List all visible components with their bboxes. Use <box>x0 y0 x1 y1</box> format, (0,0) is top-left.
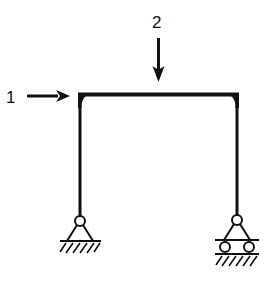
frame <box>78 93 239 216</box>
right-roller-right <box>244 242 254 252</box>
right-support-leg-left <box>224 224 234 240</box>
right-roller-left <box>220 242 230 252</box>
right-support-leg-right <box>240 224 250 240</box>
portal-frame-diagram: 1 2 <box>0 0 275 287</box>
left-pin-support <box>60 216 101 253</box>
right-pin-circle <box>232 215 242 225</box>
left-ground-hatch <box>60 243 100 253</box>
load-1: 1 <box>6 88 70 107</box>
right-roller-support <box>215 215 259 266</box>
load-2: 2 <box>152 13 165 82</box>
load-1-label: 1 <box>6 88 15 107</box>
left-support-leg-right <box>83 225 93 241</box>
load-1-arrowhead-icon <box>56 90 70 102</box>
right-ground-hatch <box>216 256 257 266</box>
load-2-label: 2 <box>152 13 161 32</box>
left-support-leg-left <box>67 225 77 241</box>
left-pin-circle <box>75 216 85 226</box>
